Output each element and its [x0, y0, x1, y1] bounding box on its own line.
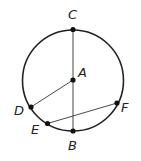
point-e	[45, 121, 50, 126]
point-d	[28, 104, 33, 109]
segment-ad	[31, 80, 73, 107]
label-e: E	[31, 122, 40, 137]
point-b	[70, 128, 75, 133]
label-b: B	[68, 138, 77, 153]
point-f	[114, 100, 119, 105]
point-a	[70, 77, 75, 82]
label-f: F	[121, 100, 129, 115]
geometry-diagram: A B C D E F	[0, 0, 141, 161]
segment-ef	[48, 103, 118, 124]
point-c	[70, 27, 75, 32]
label-a: A	[77, 65, 87, 80]
label-c: C	[68, 7, 78, 22]
label-d: D	[14, 103, 24, 118]
